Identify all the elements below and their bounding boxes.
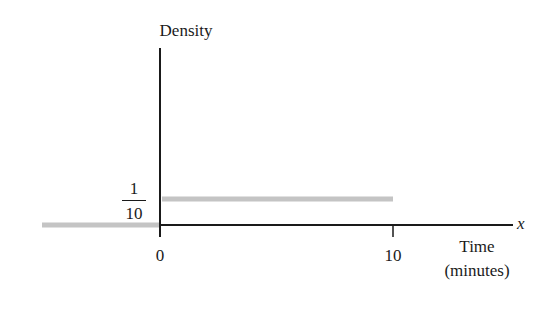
x-axis-label-line1: Time — [459, 238, 494, 255]
fraction-bar — [122, 200, 146, 201]
x-tick-label-10: 10 — [385, 247, 402, 264]
fraction-denominator: 10 — [126, 205, 143, 222]
x-axis-label-line2: (minutes) — [444, 262, 509, 279]
x-tick-label-0: 0 — [156, 247, 165, 264]
fraction-numerator: 1 — [130, 180, 139, 197]
y-tick-one-tenth: 1 10 — [122, 180, 146, 222]
y-axis-label: Density — [160, 22, 213, 39]
x-axis-symbol: x — [517, 215, 525, 232]
